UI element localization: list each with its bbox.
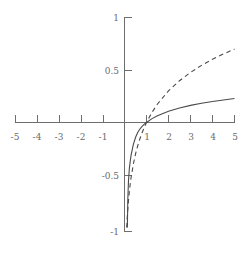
chart-canvas: -5 -4 -3 -2 -1 1 2 3 4 5 1 0.5 -0.5 -1 bbox=[0, 0, 250, 258]
dashed-curve bbox=[127, 49, 235, 227]
x-tick-label-pos3: 3 bbox=[188, 132, 194, 142]
y-tick-label-neg05: -0.5 bbox=[102, 171, 120, 181]
y-tick-label-pos1: 1 bbox=[113, 13, 119, 23]
x-tick-label-pos1: 1 bbox=[144, 132, 150, 142]
y-tick-label-pos05: 0.5 bbox=[105, 66, 120, 76]
x-tick-label-pos2: 2 bbox=[166, 132, 172, 142]
x-tick-label-neg5: -5 bbox=[11, 132, 20, 142]
x-tick-label-pos5: 5 bbox=[232, 132, 238, 142]
solid-curve bbox=[127, 99, 234, 228]
x-tick-label-neg4: -4 bbox=[33, 132, 42, 142]
x-tick-label-neg1: -1 bbox=[99, 132, 108, 142]
logarithm-chart: -5 -4 -3 -2 -1 1 2 3 4 5 1 0.5 -0.5 -1 bbox=[0, 0, 250, 258]
x-tick-label-pos4: 4 bbox=[210, 132, 216, 142]
x-tick-label-neg2: -2 bbox=[77, 132, 86, 142]
x-tick-label-neg3: -3 bbox=[55, 132, 64, 142]
y-tick-label-neg1: -1 bbox=[110, 227, 119, 237]
